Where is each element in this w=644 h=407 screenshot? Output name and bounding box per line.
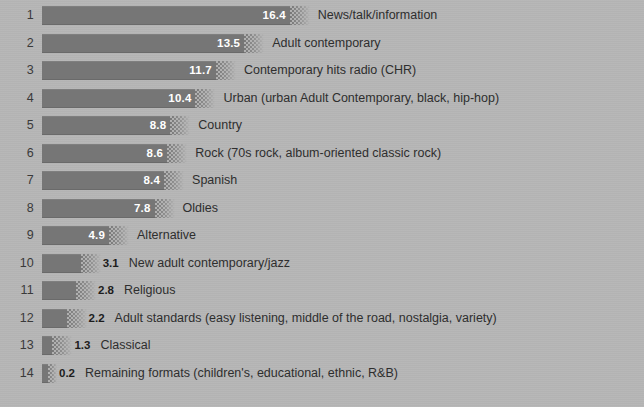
horizontal-bar-chart: 116.4News/talk/information213.5Adult con… bbox=[0, 0, 644, 407]
value-bar bbox=[42, 336, 72, 355]
value-bar: 8.6 bbox=[42, 144, 187, 163]
row-rank: 12 bbox=[0, 309, 34, 328]
value-bar: 13.5 bbox=[42, 34, 264, 53]
bar-dither-tail bbox=[67, 309, 87, 328]
category-label: Adult standards (easy listening, middle … bbox=[115, 309, 497, 328]
bar-dither-tail bbox=[290, 6, 310, 25]
bar-dither-tail bbox=[167, 144, 187, 163]
bar-dither-tail bbox=[170, 116, 190, 135]
category-label: Country bbox=[198, 116, 242, 135]
category-label: News/talk/information bbox=[318, 6, 438, 25]
row-rank: 4 bbox=[0, 89, 34, 108]
chart-row: 140.2Remaining formats (children's, educ… bbox=[0, 363, 644, 391]
chart-row: 87.8Oldies bbox=[0, 198, 644, 226]
bar-value-label: 11.7 bbox=[189, 61, 212, 80]
bar-value-label: 0.2 bbox=[59, 364, 75, 383]
bar-dither-tail bbox=[164, 171, 184, 190]
chart-row: 103.1New adult contemporary/jazz bbox=[0, 253, 644, 281]
row-rank: 8 bbox=[0, 199, 34, 218]
row-rank: 14 bbox=[0, 364, 34, 383]
bar-value-label: 8.6 bbox=[147, 144, 164, 163]
bar-dither-tail bbox=[76, 281, 96, 300]
category-label: Religious bbox=[124, 281, 175, 300]
chart-row: 58.8Country bbox=[0, 115, 644, 143]
value-bar bbox=[42, 254, 101, 273]
value-bar: 7.8 bbox=[42, 199, 175, 218]
bar-fill: 11.7 bbox=[42, 61, 216, 80]
category-label: Urban (urban Adult Contemporary, black, … bbox=[223, 89, 499, 108]
bar-fill bbox=[42, 336, 52, 355]
row-rank: 13 bbox=[0, 336, 34, 355]
value-bar bbox=[42, 309, 87, 328]
row-rank: 10 bbox=[0, 254, 34, 273]
bar-dither-tail bbox=[195, 89, 215, 108]
chart-row: 78.4Spanish bbox=[0, 170, 644, 198]
chart-row: 116.4News/talk/information bbox=[0, 5, 644, 33]
chart-row: 68.6Rock (70s rock, album-oriented class… bbox=[0, 143, 644, 171]
bar-dither-tail bbox=[155, 199, 175, 218]
row-rank: 5 bbox=[0, 116, 34, 135]
value-bar: 8.4 bbox=[42, 171, 184, 190]
bar-value-label: 8.4 bbox=[143, 171, 160, 190]
bar-value-label: 7.8 bbox=[134, 199, 151, 218]
value-bar: 8.8 bbox=[42, 116, 190, 135]
bar-fill bbox=[42, 254, 81, 273]
category-label: Rock (70s rock, album-oriented classic r… bbox=[195, 144, 441, 163]
chart-row: 94.9Alternative bbox=[0, 225, 644, 253]
bar-value-label: 3.1 bbox=[103, 254, 119, 273]
bar-fill: 8.8 bbox=[42, 116, 170, 135]
bar-fill: 10.4 bbox=[42, 89, 195, 108]
value-bar: 16.4 bbox=[42, 6, 310, 25]
bar-value-label: 13.5 bbox=[217, 34, 240, 53]
bar-dither-tail bbox=[48, 364, 57, 383]
value-bar: 4.9 bbox=[42, 226, 129, 245]
bar-dither-tail bbox=[244, 34, 264, 53]
bar-fill bbox=[42, 281, 76, 300]
bar-dither-tail bbox=[52, 336, 72, 355]
bar-value-label: 2.2 bbox=[89, 309, 105, 328]
chart-row: 122.2Adult standards (easy listening, mi… bbox=[0, 308, 644, 336]
row-rank: 1 bbox=[0, 6, 34, 25]
category-label: Spanish bbox=[192, 171, 237, 190]
bar-fill: 7.8 bbox=[42, 199, 155, 218]
chart-row: 311.7Contemporary hits radio (CHR) bbox=[0, 60, 644, 88]
row-rank: 7 bbox=[0, 171, 34, 190]
bar-value-label: 4.9 bbox=[88, 226, 105, 245]
category-label: New adult contemporary/jazz bbox=[129, 254, 290, 273]
row-rank: 11 bbox=[0, 281, 34, 300]
bar-fill: 13.5 bbox=[42, 34, 244, 53]
category-label: Alternative bbox=[137, 226, 196, 245]
bar-fill: 4.9 bbox=[42, 226, 109, 245]
bar-dither-tail bbox=[81, 254, 101, 273]
bar-value-label: 2.8 bbox=[98, 281, 114, 300]
category-label: Contemporary hits radio (CHR) bbox=[244, 61, 416, 80]
category-label: Classical bbox=[100, 336, 150, 355]
row-rank: 2 bbox=[0, 34, 34, 53]
row-rank: 6 bbox=[0, 144, 34, 163]
bar-fill: 8.6 bbox=[42, 144, 167, 163]
value-bar: 11.7 bbox=[42, 61, 236, 80]
chart-row: 410.4Urban (urban Adult Contemporary, bl… bbox=[0, 88, 644, 116]
bar-dither-tail bbox=[216, 61, 236, 80]
category-label: Oldies bbox=[183, 199, 218, 218]
value-bar bbox=[42, 364, 57, 383]
value-bar bbox=[42, 281, 96, 300]
chart-row: 112.8Religious bbox=[0, 280, 644, 308]
chart-rows: 116.4News/talk/information213.5Adult con… bbox=[0, 5, 644, 390]
bar-value-label: 8.8 bbox=[150, 116, 167, 135]
bar-fill: 16.4 bbox=[42, 6, 290, 25]
bar-fill: 8.4 bbox=[42, 171, 164, 190]
row-rank: 3 bbox=[0, 61, 34, 80]
value-bar: 10.4 bbox=[42, 89, 215, 108]
category-label: Adult contemporary bbox=[272, 34, 380, 53]
bar-value-label: 16.4 bbox=[263, 6, 286, 25]
bar-value-label: 10.4 bbox=[168, 89, 191, 108]
chart-row: 131.3Classical bbox=[0, 335, 644, 363]
category-label: Remaining formats (children's, education… bbox=[85, 364, 398, 383]
bar-fill bbox=[42, 309, 67, 328]
row-rank: 9 bbox=[0, 226, 34, 245]
bar-dither-tail bbox=[109, 226, 129, 245]
bar-value-label: 1.3 bbox=[74, 336, 90, 355]
chart-row: 213.5Adult contemporary bbox=[0, 33, 644, 61]
